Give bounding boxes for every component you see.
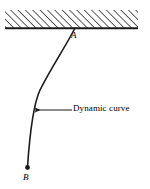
dynamic-curve-annotation-label: Dynamic curve xyxy=(73,104,130,113)
point-a-label: A xyxy=(71,31,77,40)
dynamic-curve-diagram xyxy=(0,0,150,189)
figure-container: A B Dynamic curve xyxy=(0,0,150,189)
hatch-fill xyxy=(5,10,138,28)
hatched-ceiling xyxy=(5,10,138,28)
dynamic-curve xyxy=(28,28,76,167)
point-b-marker xyxy=(25,165,30,170)
point-b-label: B xyxy=(23,173,29,182)
